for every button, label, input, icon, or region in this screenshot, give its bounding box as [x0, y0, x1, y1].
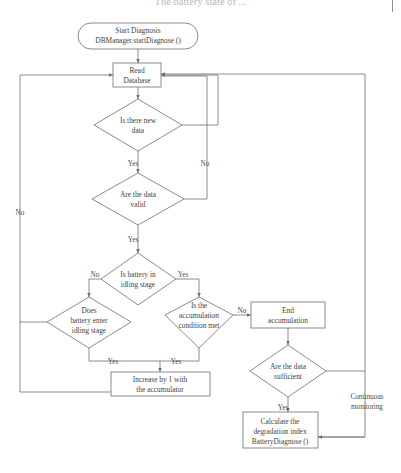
is-battery-idling-line2: idling stage: [121, 280, 156, 289]
node-does-battery-enter-idling: Does battery enter idling stage: [47, 297, 131, 348]
is-battery-idling-shape: [101, 253, 176, 305]
read-database-line2: Database: [123, 76, 151, 85]
are-the-data-valid-line1: Are the data: [120, 190, 157, 199]
label-data-valid-no: No: [16, 209, 25, 217]
start-label-line1: Start Diagnosis: [115, 26, 160, 35]
read-database-line1: Read: [129, 66, 144, 75]
accumulation-condition-line2: accumulation: [179, 311, 219, 320]
calculate-degradation-line2: degradation index: [253, 427, 306, 436]
label-idling-no: No: [91, 271, 100, 279]
increase-accumulator-line2: the accumulator: [136, 385, 184, 394]
does-battery-enter-idling-line1: Does: [81, 306, 96, 315]
are-the-data-valid-line2: valid: [131, 200, 146, 209]
label-idling-yes: Yes: [178, 271, 189, 279]
node-are-data-sufficient: Are the data sufficient: [250, 345, 326, 397]
label-continuous-monitoring-1: Continuous: [350, 393, 383, 401]
node-are-the-data-valid: Are the data valid: [92, 173, 184, 225]
are-data-sufficient-line2: sufficient: [274, 372, 303, 381]
label-enter-idling-yes: Yes: [108, 358, 119, 366]
node-increase-accumulator: Increase by 1 with the accumulator: [111, 372, 210, 396]
increase-accumulator-line1: Increase by 1 with: [133, 375, 188, 384]
calculate-degradation-line3: BatteryDiagnose (): [252, 437, 309, 446]
are-data-sufficient-line1: Are the data: [270, 362, 307, 371]
start-label-line2: DBManager.startDiagnose (): [95, 36, 181, 45]
node-end-accumulation: End accumulation: [251, 302, 325, 328]
node-is-there-new-data: Is there new data: [94, 99, 182, 151]
does-battery-enter-idling-line3: idling stage: [72, 326, 107, 335]
calculate-degradation-line1: Calculate the: [261, 417, 301, 426]
is-battery-idling-line1: Is battery in: [120, 270, 156, 279]
label-accumulation-yes: Yes: [171, 358, 182, 366]
label-accumulation-no: No: [238, 307, 247, 315]
node-start: Start Diagnosis DBManager.startDiagnose …: [78, 23, 198, 49]
label-new-data-no: No: [201, 160, 210, 168]
is-there-new-data-line1: Is there new: [120, 116, 157, 125]
end-accumulation-line1: End: [282, 306, 294, 315]
edge-idling-yes: [176, 279, 199, 297]
are-the-data-valid-shape: [92, 173, 184, 225]
is-there-new-data-shape: [94, 99, 182, 151]
edge-idling-no: [89, 279, 101, 297]
end-accumulation-line2: accumulation: [268, 316, 308, 325]
accumulation-condition-line1: Is the: [191, 301, 208, 310]
are-data-sufficient-shape: [250, 345, 326, 397]
label-data-valid-yes: Yes: [128, 236, 139, 244]
node-read-database: Read Database: [113, 63, 161, 87]
flowchart-canvas: Start Diagnosis DBManager.startDiagnose …: [0, 0, 401, 473]
node-is-battery-idling: Is battery in idling stage: [101, 253, 176, 305]
edge-datavalid-no: [161, 76, 207, 199]
label-continuous-monitoring-2: monitoring: [351, 403, 383, 411]
node-calculate-degradation: Calculate the degradation index BatteryD…: [243, 412, 318, 448]
does-battery-enter-idling-line2: battery enter: [70, 316, 108, 325]
node-accumulation-condition: Is the accumulation condition met: [165, 297, 233, 348]
label-sufficient-yes: Yes: [278, 404, 289, 412]
accumulation-condition-line3: condition met: [179, 321, 221, 330]
is-there-new-data-line2: data: [132, 126, 145, 135]
edge-enteridling-yes: [89, 348, 160, 372]
label-new-data-yes: Yes: [128, 160, 139, 168]
